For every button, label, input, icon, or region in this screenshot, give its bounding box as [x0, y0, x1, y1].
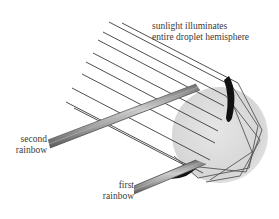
second-rainbow-label-line1: second	[4, 134, 47, 145]
first-rainbow-label-line1: first	[90, 180, 134, 191]
rainbow-diagram: sunlight illuminates entire droplet hemi…	[0, 0, 279, 219]
sunlight-caption-line1: sunlight illuminates	[152, 21, 249, 32]
first-rainbow-label-line2: rainbow	[90, 191, 134, 202]
second-rainbow-label: second rainbow	[4, 134, 47, 156]
second-rainbow-label-line2: rainbow	[4, 145, 47, 156]
first-rainbow-label: first rainbow	[90, 180, 134, 202]
sunlight-caption-line2: entire droplet hemisphere	[152, 32, 249, 43]
sunlight-caption: sunlight illuminates entire droplet hemi…	[152, 21, 249, 43]
first-rainbow-bundle	[134, 160, 206, 194]
